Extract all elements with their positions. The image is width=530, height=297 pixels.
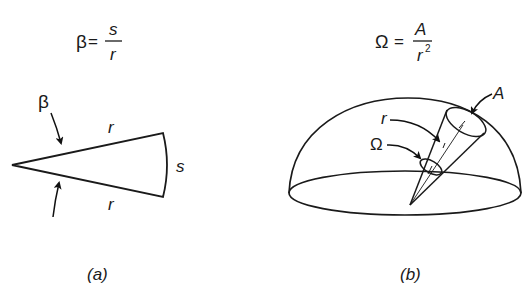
cone-cap-ellipse	[441, 101, 490, 142]
omega-symbol: Ω	[375, 32, 388, 52]
formula-a: β = s r	[76, 20, 122, 64]
denominator-r: r	[417, 46, 424, 65]
omega-arrow-icon	[387, 145, 420, 158]
hemisphere	[289, 98, 521, 215]
omega-label: Ω	[370, 135, 383, 154]
beta-arrow-top-icon	[51, 113, 61, 143]
caption-a: (a)	[87, 265, 108, 284]
panel-a: β = s r β r r s (a)	[12, 20, 185, 284]
denominator-r: r	[110, 45, 117, 64]
numerator-A: A	[414, 20, 426, 39]
radius-label-bottom: r	[108, 195, 115, 214]
beta-arrow-bottom-icon	[53, 183, 59, 217]
panel-b: Ω = A r 2 A r Ω (b)	[289, 20, 521, 284]
numerator-s: s	[109, 20, 118, 39]
solid-angle-diagram: β = s r β r r s (a) Ω = A r 2	[0, 0, 530, 297]
beta-label: β	[38, 91, 49, 112]
sector-shape	[12, 133, 167, 197]
equals-sign-b: =	[394, 32, 404, 51]
arc-length-label: s	[176, 157, 185, 176]
radius-arrow-icon	[390, 120, 439, 141]
area-label: A	[492, 84, 504, 103]
base-ellipse	[289, 171, 521, 215]
formula-b: Ω = A r 2	[375, 20, 432, 65]
caption-b: (b)	[400, 265, 421, 284]
radius-label-b: r	[381, 109, 388, 128]
exponent-2: 2	[425, 43, 431, 54]
radius-label-top: r	[108, 118, 115, 137]
area-arrow-icon	[472, 94, 492, 113]
cone	[410, 101, 491, 205]
equals-sign: =	[88, 32, 98, 51]
dome-outline	[289, 98, 521, 193]
beta-symbol: β	[76, 31, 87, 52]
